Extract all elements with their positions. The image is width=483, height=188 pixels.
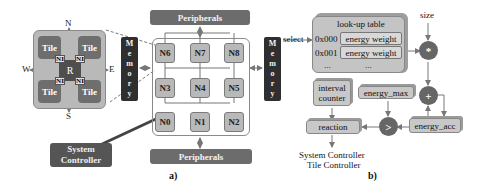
reaction-block: reaction <box>306 120 360 134</box>
memory-letter: o <box>128 69 132 79</box>
node-n7: N7 <box>190 43 210 63</box>
node-n5: N5 <box>224 78 244 98</box>
memory-letter: e <box>128 49 132 59</box>
lut-addr-1: 0x001 <box>315 48 338 58</box>
lookup-table-title: look-up table <box>337 19 385 29</box>
interval-counter: interval counter <box>313 80 351 106</box>
memory-left: M e m o r y <box>121 37 138 101</box>
memory-letter: o <box>271 69 275 79</box>
lut-value-1: energy weight <box>340 46 402 59</box>
node-n0: N0 <box>155 112 175 132</box>
network-interface-nw: NI <box>55 55 65 63</box>
node-n4: N4 <box>190 78 210 98</box>
interval-counter-line2: counter <box>319 93 346 103</box>
energy-max-register: energy_max <box>358 86 414 99</box>
memory-letter: y <box>128 89 132 99</box>
memory-right: M e m o r y <box>264 37 281 101</box>
network-interface-se: NI <box>75 77 85 85</box>
node-n1: N1 <box>190 112 210 132</box>
size-label: size <box>420 10 434 20</box>
memory-letter: m <box>126 59 133 69</box>
direction-south: S <box>66 111 71 121</box>
node-n3: N3 <box>155 78 175 98</box>
node-n8: N8 <box>224 43 244 63</box>
add-operator: + <box>419 86 438 105</box>
node-n6: N6 <box>155 43 175 63</box>
memory-letter: e <box>271 49 275 59</box>
memory-letter: m <box>269 59 276 69</box>
direction-north: N <box>65 18 72 28</box>
peripherals-bottom: Peripherals <box>150 149 252 164</box>
network-interface-ne: NI <box>75 55 85 63</box>
system-controller-line2: Controller <box>61 155 101 166</box>
multiply-operator: * <box>419 41 438 60</box>
node-n2: N2 <box>224 112 244 132</box>
peripherals-top: Peripherals <box>150 10 250 25</box>
compare-operator: > <box>379 117 398 136</box>
lut-value-0: energy weight <box>340 32 402 45</box>
interval-counter-line1: interval <box>318 83 346 93</box>
caption-a: a) <box>169 170 177 181</box>
memory-letter: M <box>269 39 277 49</box>
energy-acc-register: energy_acc <box>409 118 461 133</box>
system-controller-line1: System <box>67 144 95 155</box>
lut-value-ellipsis: ... <box>365 60 372 70</box>
direction-west: W <box>22 64 31 74</box>
output-tile-controller: Tile Controller <box>307 160 360 170</box>
output-system-controller: System Controller <box>299 150 365 160</box>
memory-letter: y <box>271 89 275 99</box>
direction-east: E <box>109 64 115 74</box>
caption-b: b) <box>368 170 377 181</box>
lut-addr-0: 0x000 <box>315 34 338 44</box>
lut-addr-ellipsis: ... <box>324 60 331 70</box>
memory-letter: r <box>271 79 275 89</box>
network-interface-sw: NI <box>55 77 65 85</box>
memory-letter: M <box>126 39 134 49</box>
system-controller: System Controller <box>50 143 112 167</box>
select-label: select <box>283 34 304 44</box>
memory-letter: r <box>128 79 132 89</box>
